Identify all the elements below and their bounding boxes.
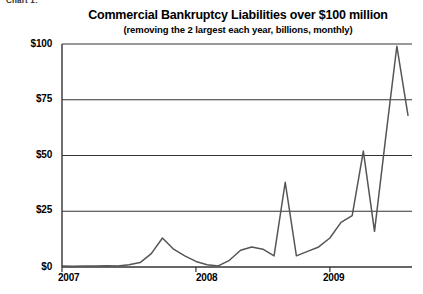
gridlines-group <box>62 44 412 267</box>
bankruptcy-liabilities-chart: Chart 1: Commercial Bankruptcy Liabiliti… <box>0 0 423 294</box>
chart-plot-area <box>0 0 423 294</box>
data-series-line <box>62 46 408 266</box>
